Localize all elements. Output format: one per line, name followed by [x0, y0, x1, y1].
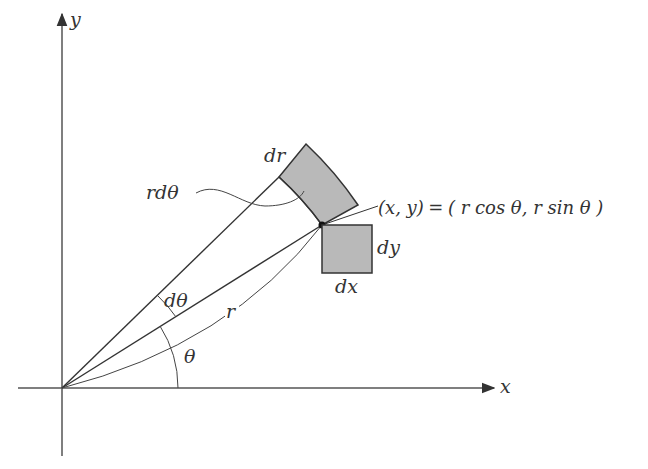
polar-area-sector — [279, 144, 358, 225]
point-lhs: (x, y) — [378, 197, 424, 218]
dy-label: dy — [377, 236, 400, 258]
point-coordinates-label: (x, y) = ( r cos θ, r sin θ ) — [378, 197, 603, 218]
point-eq: = — [428, 197, 443, 218]
theta-label: θ — [184, 345, 196, 367]
point-rhs: ( r cos θ, r sin θ ) — [448, 197, 603, 218]
dx-label: dx — [335, 275, 358, 297]
polar-area-diagram: y x dr rdθ dθ r θ dy dx (x, y) = ( r cos… — [0, 0, 648, 469]
rdtheta-leader — [196, 189, 304, 206]
dtheta-label: dθ — [164, 289, 188, 311]
ray-theta-plus-dtheta — [62, 177, 279, 388]
y-axis-label: y — [69, 8, 81, 30]
theta-arc — [160, 326, 178, 388]
rdtheta-label: rdθ — [146, 181, 179, 203]
x-axis-label: x — [500, 375, 511, 397]
dx-dy-square — [322, 225, 372, 273]
dr-label: dr — [264, 144, 287, 166]
